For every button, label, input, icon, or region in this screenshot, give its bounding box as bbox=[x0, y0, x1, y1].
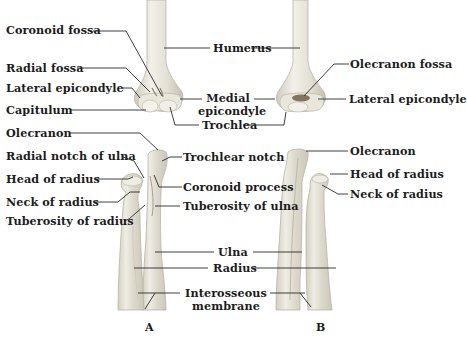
label-head-of-radius-a: Head of radius bbox=[6, 173, 100, 186]
label-humerus: Humerus bbox=[213, 42, 272, 55]
label-capitulum: Capitulum bbox=[6, 104, 73, 117]
panel-label-a: A bbox=[145, 321, 154, 334]
forearm-anterior bbox=[118, 150, 167, 310]
label-ulna: Ulna bbox=[218, 246, 248, 259]
panel-label-b: B bbox=[316, 321, 325, 334]
label-lateral-epicondyle-a: Lateral epicondyle bbox=[6, 82, 124, 95]
label-radial-notch-of-ulna: Radial notch of ulna bbox=[6, 150, 136, 163]
label-tuberosity-of-ulna: Tuberosity of ulna bbox=[183, 200, 299, 213]
label-tuberosity-of-radius: Tuberosity of radius bbox=[6, 215, 134, 228]
label-trochlea: Trochlea bbox=[202, 119, 257, 132]
label-head-of-radius-b: Head of radius bbox=[350, 168, 444, 181]
label-coronoid-fossa: Coronoid fossa bbox=[6, 24, 101, 37]
humerus-anterior bbox=[134, 0, 182, 112]
label-medial-epicondyle-line2: epicondyle bbox=[198, 105, 258, 118]
label-lateral-epicondyle-b: Lateral epicondyle bbox=[349, 93, 467, 106]
label-radius: Radius bbox=[213, 262, 257, 275]
label-olecranon-a: Olecranon bbox=[6, 127, 72, 140]
label-olecranon-b: Olecranon bbox=[350, 145, 416, 158]
humerus-posterior bbox=[276, 0, 325, 112]
olecranon-fossa-shape bbox=[292, 95, 310, 102]
label-coronoid-process: Coronoid process bbox=[183, 181, 294, 194]
forearm-posterior bbox=[276, 149, 332, 310]
label-olecranon-fossa: Olecranon fossa bbox=[350, 58, 452, 71]
label-neck-of-radius-b: Neck of radius bbox=[350, 188, 443, 201]
label-neck-of-radius-a: Neck of radius bbox=[6, 196, 99, 209]
label-trochlear-notch: Trochlear notch bbox=[183, 151, 284, 164]
label-interosseous-line2: membrane bbox=[183, 300, 269, 313]
label-radial-fossa: Radial fossa bbox=[6, 62, 84, 75]
